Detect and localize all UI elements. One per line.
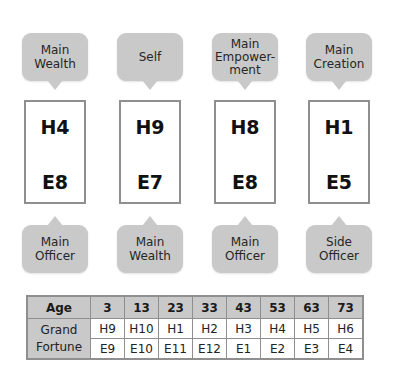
callout-text: Side [326, 235, 352, 249]
palace-box-4: H1 E5 [308, 100, 370, 204]
callout-tail-icon [237, 216, 253, 226]
age-cell: 3 [91, 296, 125, 319]
callout-tail-icon [237, 80, 253, 90]
palace-box-2: H9 E7 [119, 100, 181, 204]
element-cell: E4 [329, 339, 364, 360]
callout-text: Self [139, 50, 162, 64]
age-row: Age 3 13 23 33 43 53 63 73 [27, 296, 363, 319]
callout-text: Main [41, 43, 70, 57]
house-cell: H10 [125, 319, 159, 339]
callout-text: Empower- [215, 50, 275, 64]
house-cell: H2 [193, 319, 227, 339]
callout-text: ment [229, 63, 260, 77]
house-cell: H4 [261, 319, 295, 339]
element-cell: E1 [227, 339, 261, 360]
element-label: E7 [121, 171, 179, 193]
grand-fortune-table: Age 3 13 23 33 43 53 63 73 GrandFortune … [26, 295, 364, 360]
row-label-text: Grand [41, 323, 78, 337]
age-cell: 13 [125, 296, 159, 319]
callout-text: Main [231, 37, 260, 51]
callout-text: Officer [225, 249, 265, 263]
house-cell: H5 [295, 319, 329, 339]
age-cell: 33 [193, 296, 227, 319]
callout-text: Main [325, 43, 354, 57]
house-label: H1 [310, 116, 368, 138]
age-header: Age [27, 296, 91, 319]
callout-text: Wealth [34, 57, 76, 71]
element-label: E8 [216, 171, 274, 193]
callout-text: Main [231, 235, 260, 249]
house-label: H8 [216, 116, 274, 138]
element-label: E5 [310, 171, 368, 193]
callout-text: Officer [35, 249, 75, 263]
bottom-callout-3: MainOfficer [212, 225, 278, 273]
callout-tail-icon [331, 216, 347, 226]
age-cell: 43 [227, 296, 261, 319]
house-cell: H1 [159, 319, 193, 339]
callout-text: Main [136, 235, 165, 249]
age-cell: 63 [295, 296, 329, 319]
age-cell: 53 [261, 296, 295, 319]
row-label-text: Fortune [36, 340, 82, 354]
element-label: E8 [26, 171, 84, 193]
callout-tail-icon [331, 80, 347, 90]
house-cell: H6 [329, 319, 364, 339]
callout-tail-icon [142, 216, 158, 226]
top-callout-1: MainWealth [22, 33, 88, 81]
callout-text: Wealth [129, 249, 171, 263]
element-cell: E12 [193, 339, 227, 360]
top-callout-2: Self [117, 33, 183, 81]
house-cell: H9 [91, 319, 125, 339]
house-cell: H3 [227, 319, 261, 339]
callout-text: Main [41, 235, 70, 249]
element-cell: E2 [261, 339, 295, 360]
element-cell: E10 [125, 339, 159, 360]
house-label: H4 [26, 116, 84, 138]
palace-box-3: H8 E8 [214, 100, 276, 204]
top-callout-3: MainEmpower-ment [212, 33, 278, 81]
palace-box-1: H4 E8 [24, 100, 86, 204]
callout-tail-icon [47, 216, 63, 226]
house-label: H9 [121, 116, 179, 138]
age-cell: 23 [159, 296, 193, 319]
element-cell: E9 [91, 339, 125, 360]
bottom-callout-4: SideOfficer [306, 225, 372, 273]
grand-fortune-label: GrandFortune [27, 319, 91, 360]
bottom-callout-1: MainOfficer [22, 225, 88, 273]
age-cell: 73 [329, 296, 364, 319]
bottom-callout-2: MainWealth [117, 225, 183, 273]
callout-text: Creation [314, 57, 365, 71]
element-cell: E3 [295, 339, 329, 360]
top-callout-4: MainCreation [306, 33, 372, 81]
callout-text: Officer [319, 249, 359, 263]
callout-tail-icon [142, 80, 158, 90]
house-row: GrandFortune H9 H10 H1 H2 H3 H4 H5 H6 [27, 319, 363, 339]
element-cell: E11 [159, 339, 193, 360]
callout-tail-icon [47, 80, 63, 90]
